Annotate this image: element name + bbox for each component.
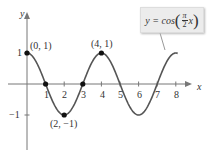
callout-close-paren: ) [193,12,199,29]
x-tick-label-3: 3 [81,90,86,100]
callout-pointer [160,33,165,50]
callout-open-paren: ( [175,12,181,29]
point-label-2-neg1: (2, −1) [50,119,77,129]
x-tick-label-1: 1 [44,90,49,100]
y-axis-arrow-icon [24,12,30,19]
function-callout: y = cos ( π 2 x ) [140,7,204,33]
x-tick-label-4: 4 [100,90,105,100]
x-tick-label-5: 5 [118,90,123,100]
y-tick-label-1: 1 [17,48,22,58]
callout-lhs: y = cos [145,15,175,26]
callout-fraction: π 2 [182,12,188,29]
y-axis-label: y [20,9,24,19]
callout-denominator: 2 [183,21,187,29]
y-tick-label-neg1: −1 [9,110,20,120]
x-tick-label-7: 7 [155,90,160,100]
point-label-4-1: (4, 1) [91,39,113,49]
x-tick-label-8: 8 [174,90,179,100]
point-label-0-1: (0, 1) [30,41,52,51]
x-axis-label: x [197,82,201,92]
x-tick-label-6: 6 [137,90,142,100]
x-tick-label-2: 2 [62,90,67,100]
x-axis-arrow-icon [185,81,192,87]
